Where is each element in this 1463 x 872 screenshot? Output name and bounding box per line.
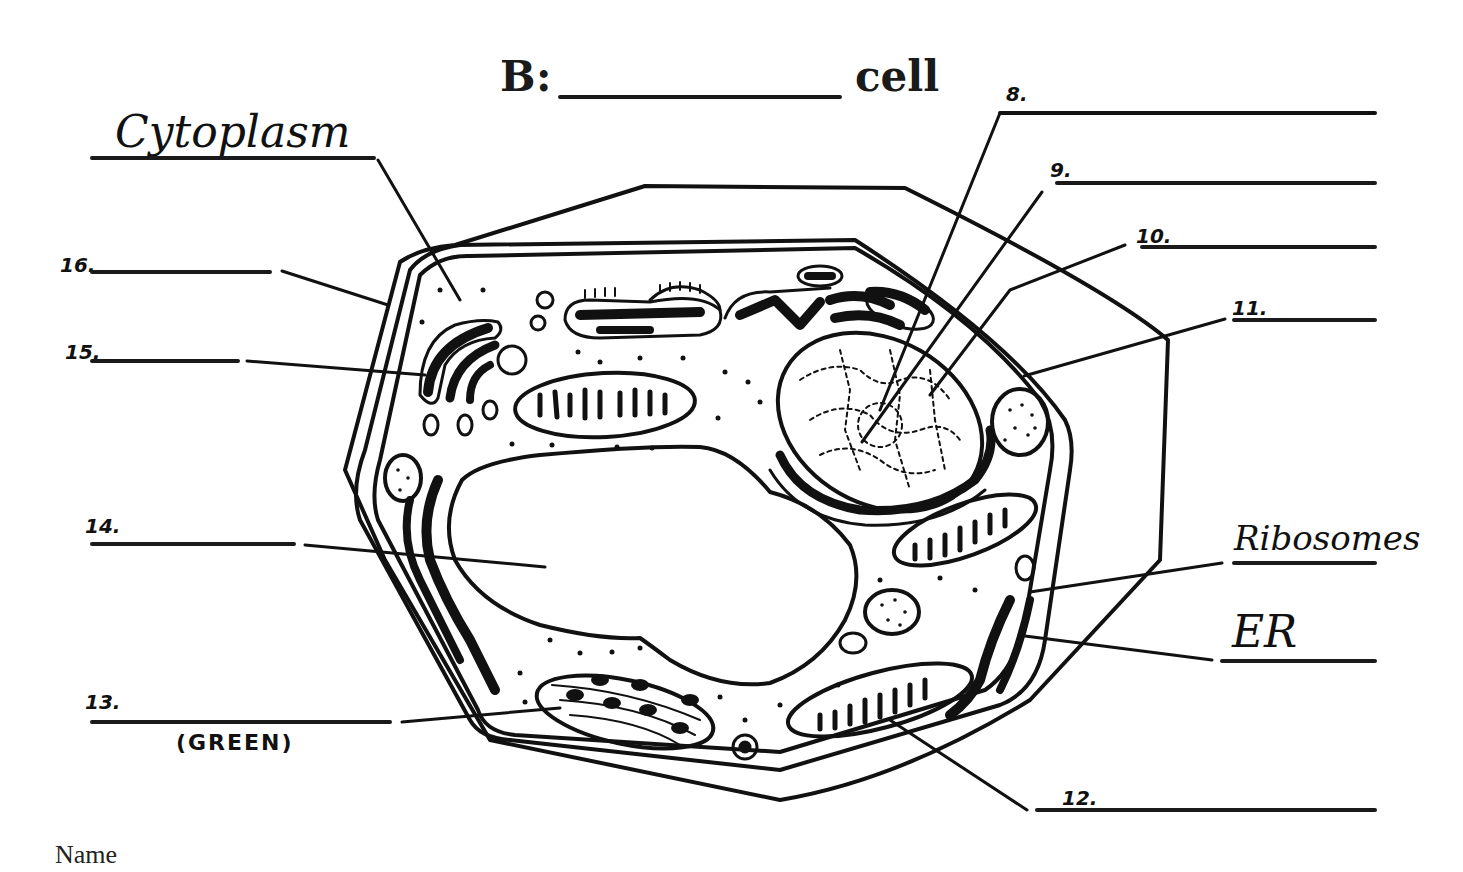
label-ribosomes: Ribosomes	[1234, 518, 1420, 558]
blank-ribosomes[interactable]	[1232, 561, 1377, 565]
mitochondrion-upper	[513, 368, 696, 441]
label-cytoplasm: Cytoplasm	[115, 106, 350, 157]
blank-12[interactable]	[1035, 808, 1377, 812]
mitochondrion-lower	[781, 648, 979, 751]
blank-16[interactable]	[90, 270, 272, 274]
number-9: 9.	[1050, 158, 1072, 182]
blank-er[interactable]	[1220, 659, 1377, 663]
number-13: 13.	[85, 690, 120, 714]
number-11: 11.	[1232, 296, 1267, 320]
blank-11[interactable]	[1232, 318, 1377, 322]
number-14: 14.	[85, 514, 120, 538]
label-er: ER	[1232, 606, 1297, 657]
number-8: 8.	[1006, 82, 1028, 106]
blank-14[interactable]	[90, 542, 296, 546]
blank-10[interactable]	[1140, 245, 1377, 249]
plant-cell-worksheet: B: cell	[0, 0, 1463, 872]
rough-er-right	[950, 600, 1030, 715]
blank-15[interactable]	[90, 359, 240, 363]
er-stacks-top	[565, 266, 938, 338]
number-12: 12.	[1062, 786, 1097, 810]
mitochondrion-right	[886, 480, 1045, 580]
blank-cytoplasm[interactable]	[90, 156, 376, 160]
chromatin	[800, 350, 960, 490]
blank-9[interactable]	[1055, 181, 1377, 185]
name-label: Name	[55, 840, 117, 870]
blank-13[interactable]	[90, 720, 392, 724]
golgi-left	[420, 321, 501, 404]
green-note: (GREEN)	[176, 730, 294, 755]
